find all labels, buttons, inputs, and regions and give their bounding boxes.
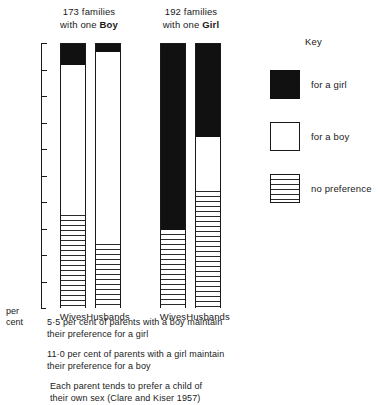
chart-note-2-line1: 11·0 per cent of parents with a girl mai… <box>47 348 347 360</box>
bar-segment-girl <box>96 44 120 52</box>
chart-note-2-line2: their preference for a boy <box>47 360 347 372</box>
y-axis-unit-line2: cent <box>6 317 40 328</box>
legend-label-girl: for a girl <box>311 79 347 90</box>
legend-swatch-boy-icon <box>270 122 300 151</box>
bars-layer <box>0 43 250 308</box>
bar-girl-husbands[interactable] <box>195 43 221 308</box>
chart-note-1-line1: 5·5 per cent of parents with a boy maint… <box>47 316 347 328</box>
bar-segment-no-preference <box>161 230 185 310</box>
bar-segment-girl <box>196 44 220 137</box>
bar-segment-boy <box>61 65 85 211</box>
chart-note-1-line2: their preference for a girl <box>47 328 347 340</box>
chart-note-1: 5·5 per cent of parents with a boy maint… <box>47 316 347 340</box>
bar-girl-wives[interactable] <box>160 43 186 308</box>
legend-title: Key <box>305 36 322 47</box>
legend-label-boy: for a boy <box>311 131 349 142</box>
bar-segment-girl <box>61 44 85 65</box>
legend-item-for-a-girl[interactable]: for a girl <box>262 70 380 102</box>
bar-boy-husbands[interactable] <box>95 43 121 308</box>
chart-plot-area: 100 90 80 70 60 50 40 30 20 10 per cent <box>0 0 250 320</box>
bar-segment-boy <box>96 52 120 240</box>
bar-segment-no-preference <box>196 187 220 309</box>
chart-notes: 5·5 per cent of parents with a boy maint… <box>47 316 347 404</box>
chart-note-3: Each parent tends to prefer a child of t… <box>50 380 347 404</box>
bar-segment-boy <box>196 137 220 187</box>
legend-label-no-preference: no preference <box>311 183 372 194</box>
legend-swatch-girl-icon <box>270 70 300 99</box>
bar-segment-girl <box>161 44 185 230</box>
bar-segment-no-preference <box>61 211 85 309</box>
y-axis-bottom-cap <box>41 308 46 309</box>
chart-note-3-line1: Each parent tends to prefer a child of <box>50 380 347 392</box>
bar-boy-wives[interactable] <box>60 43 86 308</box>
y-axis-unit-label: per cent <box>6 306 40 327</box>
legend-swatch-no-preference-icon <box>270 174 300 203</box>
legend-item-for-a-boy[interactable]: for a boy <box>262 122 380 154</box>
bar-segment-no-preference <box>96 240 120 309</box>
chart-note-3-line2: their own sex (Clare and Kiser 1957) <box>50 392 347 404</box>
chart-note-2: 11·0 per cent of parents with a girl mai… <box>47 348 347 372</box>
legend-item-no-preference[interactable]: no preference <box>262 174 380 206</box>
